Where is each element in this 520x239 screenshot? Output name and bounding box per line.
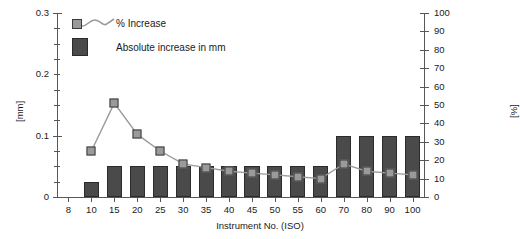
bar-20 bbox=[130, 166, 145, 197]
x-axis-tick bbox=[390, 197, 391, 202]
line-marker-15 bbox=[110, 99, 119, 108]
legend-bar-icon bbox=[72, 38, 88, 56]
plot-area bbox=[57, 13, 424, 197]
bar-10 bbox=[84, 182, 99, 197]
x-axis-tick bbox=[252, 197, 253, 202]
line-marker-100 bbox=[408, 170, 417, 179]
line-marker-45 bbox=[247, 169, 256, 178]
y-axis-right-title: [%] bbox=[508, 104, 519, 118]
line-marker-40 bbox=[225, 167, 234, 176]
x-axis-title: Instrument No. (ISO) bbox=[0, 220, 520, 231]
x-axis-tick bbox=[229, 197, 230, 202]
y-axis-left-tick-label: 0.2 bbox=[15, 69, 49, 79]
y-axis-right-tick-label: 60 bbox=[434, 82, 468, 92]
y-axis-left-title: [mm] bbox=[14, 101, 25, 122]
bar-15 bbox=[107, 166, 122, 197]
x-axis-tick bbox=[91, 197, 92, 202]
x-axis-tick bbox=[321, 197, 322, 202]
y-axis-left-tick-label: 0 bbox=[15, 192, 49, 202]
bar-55 bbox=[290, 166, 305, 197]
y-axis-left-tick-label: 0.1 bbox=[15, 131, 49, 141]
y-axis-right-tick-label: 90 bbox=[434, 26, 468, 36]
legend-line-icon bbox=[81, 17, 115, 33]
line-marker-55 bbox=[293, 172, 302, 181]
legend-label-absolute-increase: Absolute increase in mm bbox=[116, 42, 226, 53]
bar-90 bbox=[382, 136, 397, 197]
y-axis-right-tick-label: 20 bbox=[434, 155, 468, 165]
x-axis-tick-label: 100 bbox=[396, 205, 430, 215]
y-axis-left-tick bbox=[53, 197, 62, 198]
y-axis-left-tick-label: 0.3 bbox=[15, 8, 49, 18]
line-marker-25 bbox=[156, 147, 165, 156]
line-marker-30 bbox=[179, 159, 188, 168]
x-axis-tick bbox=[114, 197, 115, 202]
line-marker-90 bbox=[385, 169, 394, 178]
legend-label-percent-increase: % Increase bbox=[116, 18, 166, 29]
y-axis-right-tick-label: 10 bbox=[434, 174, 468, 184]
line-marker-80 bbox=[362, 167, 371, 176]
x-axis-tick bbox=[275, 197, 276, 202]
y-axis-right-tick-label: 30 bbox=[434, 137, 468, 147]
x-axis-tick bbox=[413, 197, 414, 202]
y-axis-right-tick bbox=[420, 197, 429, 198]
bar-30 bbox=[176, 166, 191, 197]
y-axis-right-tick-label: 50 bbox=[434, 100, 468, 110]
bar-100 bbox=[405, 136, 420, 197]
x-axis-tick bbox=[137, 197, 138, 202]
chart-container: [mm] [%] Instrument No. (ISO) 00.10.20.3… bbox=[0, 0, 520, 239]
y-axis-right-tick-label: 80 bbox=[434, 45, 468, 55]
y-axis-right-tick-label: 40 bbox=[434, 118, 468, 128]
line-marker-10 bbox=[87, 147, 96, 156]
x-axis-tick bbox=[298, 197, 299, 202]
bar-25 bbox=[153, 166, 168, 197]
x-axis-tick bbox=[68, 197, 69, 202]
line-marker-50 bbox=[270, 170, 279, 179]
x-axis-tick bbox=[183, 197, 184, 202]
x-axis-tick bbox=[344, 197, 345, 202]
y-axis-right-tick-label: 0 bbox=[434, 192, 468, 202]
line-marker-35 bbox=[202, 163, 211, 172]
line-marker-20 bbox=[133, 130, 142, 139]
x-axis-tick bbox=[367, 197, 368, 202]
line-marker-60 bbox=[316, 174, 325, 183]
y-axis-right-tick-label: 70 bbox=[434, 63, 468, 73]
x-axis-tick bbox=[206, 197, 207, 202]
y-axis-right-tick-label: 100 bbox=[434, 8, 468, 18]
x-axis-line bbox=[57, 197, 425, 198]
x-axis-tick bbox=[160, 197, 161, 202]
line-marker-70 bbox=[339, 159, 348, 168]
